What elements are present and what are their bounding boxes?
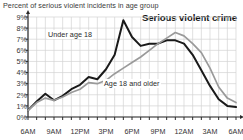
x-axis-tick-label: 9AM [47, 127, 62, 136]
y-axis-tick-label: 6% [5, 46, 27, 55]
y-axis-tick-label: 2% [5, 91, 27, 100]
x-axis-tick-label: 6AM [229, 127, 243, 136]
y-axis-tick-label: 1% [5, 102, 27, 111]
y-axis-labels: 0%1%2%3%4%5%6%7%8%9% [0, 0, 27, 140]
y-axis-tick-label: 3% [5, 79, 27, 88]
x-axis-tick-label: 6PM [125, 127, 140, 136]
series-label-under-18: Under age 18 [47, 30, 93, 39]
series-label-age-18-and-older: Age 18 and older [103, 79, 161, 88]
x-axis-tick-label: 12AM [175, 127, 194, 136]
y-axis-tick-label: 5% [5, 57, 27, 66]
chart-axes [26, 10, 243, 119]
y-axis-tick-label: 7% [5, 35, 27, 44]
y-axis-tick-label: 8% [5, 24, 27, 33]
y-axis-tick-label: 4% [5, 68, 27, 77]
chart-plot [0, 0, 243, 140]
x-axis-tick-label: 12PM [71, 127, 90, 136]
chart-container: Percent of serious violent incidents in … [0, 0, 243, 140]
y-axis-tick-label: 9% [5, 13, 27, 22]
x-axis-tick-label: 3PM [99, 127, 114, 136]
x-axis-tick-label: 9PM [151, 127, 166, 136]
x-axis-tick-label: 3AM [203, 127, 218, 136]
x-axis-tick-label: 6AM [21, 127, 36, 136]
y-axis-tick-label: 0% [5, 113, 27, 122]
